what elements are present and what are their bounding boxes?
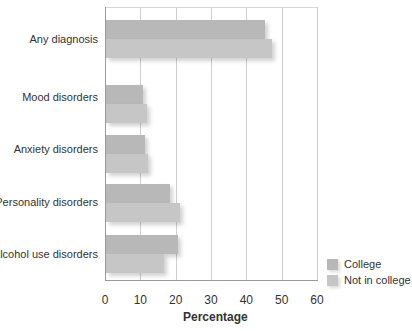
bar-college bbox=[106, 135, 145, 154]
x-axis-label: Percentage bbox=[183, 310, 248, 324]
category-label: Alcohol use disorders bbox=[0, 248, 98, 260]
legend-label-not-in-college: Not in college bbox=[344, 274, 411, 286]
x-tick-label: 60 bbox=[310, 293, 323, 307]
x-tick-label: 40 bbox=[240, 293, 253, 307]
legend-item-college: College bbox=[327, 256, 411, 272]
bar-college bbox=[106, 184, 170, 203]
bar-college bbox=[106, 20, 265, 39]
gridline bbox=[282, 7, 283, 280]
x-tick-label: 0 bbox=[102, 293, 109, 307]
bar-not-in-college bbox=[106, 154, 148, 173]
bar-not-in-college bbox=[106, 254, 164, 273]
legend: College Not in college bbox=[327, 256, 411, 288]
bar-college bbox=[106, 235, 178, 254]
category-label: Any diagnosis bbox=[30, 33, 99, 45]
legend-swatch-college bbox=[327, 259, 338, 270]
plot-area bbox=[105, 7, 318, 281]
legend-item-not-in-college: Not in college bbox=[327, 272, 411, 288]
x-tick-label: 50 bbox=[275, 293, 288, 307]
bar-not-in-college bbox=[106, 39, 272, 58]
category-label: Mood disorders bbox=[22, 91, 98, 103]
x-tick-label: 30 bbox=[204, 293, 217, 307]
x-tick-label: 20 bbox=[169, 293, 182, 307]
bar-not-in-college bbox=[106, 104, 147, 123]
bar-not-in-college bbox=[106, 203, 180, 222]
bar-college bbox=[106, 85, 143, 104]
gridline bbox=[317, 7, 318, 280]
legend-label-college: College bbox=[344, 258, 381, 270]
top-border bbox=[106, 7, 318, 8]
legend-swatch-not-in-college bbox=[327, 275, 338, 286]
category-label: Anxiety disorders bbox=[14, 143, 98, 155]
x-tick-label: 10 bbox=[134, 293, 147, 307]
category-label: Personality disorders bbox=[0, 196, 98, 208]
